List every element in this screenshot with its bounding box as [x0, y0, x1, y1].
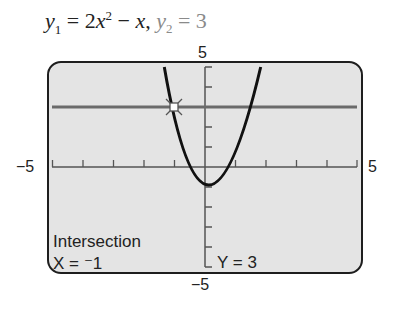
readout-title: Intersection — [53, 232, 141, 252]
readout-x: X = ⁻1 — [53, 253, 102, 274]
readout-y: Y = 3 — [217, 253, 257, 273]
